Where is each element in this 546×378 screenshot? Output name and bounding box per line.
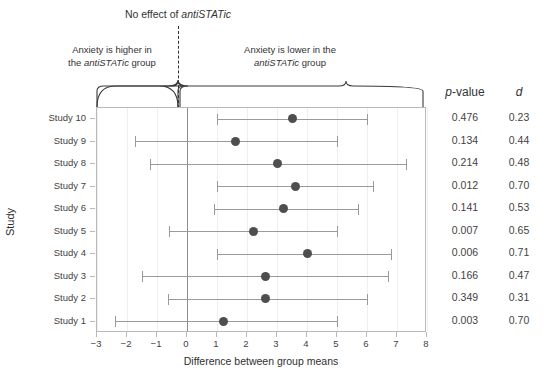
pvalue-column-header: p-value — [434, 85, 496, 99]
forest-row — [97, 108, 427, 131]
y-axis-tick-label: Study 1 — [8, 315, 86, 326]
forest-row — [97, 311, 427, 334]
annotation-right-line2-italic: antiSTATic — [254, 57, 299, 68]
y-axis-tick — [90, 253, 95, 254]
effect-size-cell: 0.65 — [500, 224, 538, 236]
ci-cap-upper — [388, 271, 389, 282]
y-axis-tick — [90, 186, 95, 187]
ci-cap-lower — [217, 181, 218, 192]
pvalue-header-suffix: -value — [452, 85, 485, 99]
ci-cap-upper — [337, 316, 338, 327]
y-axis-tick-label: Study 4 — [8, 247, 86, 258]
pvalue-cell: 0.166 — [434, 269, 496, 281]
brace-left-icon-real — [97, 81, 184, 107]
point-estimate-marker — [231, 137, 240, 146]
y-axis-tick-label: Study 8 — [8, 157, 86, 168]
ci-cap-lower — [214, 204, 215, 215]
effect-size-cell: 0.48 — [500, 156, 538, 168]
x-axis-tick-label: 7 — [383, 338, 409, 349]
effect-size-cell: 0.44 — [500, 134, 538, 146]
ci-cap-upper — [337, 136, 338, 147]
x-axis-tick-label: 1 — [203, 338, 229, 349]
pvalue-cell: 0.007 — [434, 224, 496, 236]
pvalue-cell: 0.476 — [434, 111, 496, 123]
chart-title-prefix: No effect of — [125, 8, 181, 20]
point-estimate-marker — [219, 317, 228, 326]
forest-row — [97, 221, 427, 244]
effect-size-cell: 0.70 — [500, 179, 538, 191]
y-axis-tick — [90, 208, 95, 209]
ci-cap-lower — [142, 271, 143, 282]
y-axis-title: Study — [4, 192, 16, 252]
y-axis-tick-label: Study 7 — [8, 180, 86, 191]
x-axis-tick — [96, 332, 97, 337]
brace-group — [96, 80, 426, 108]
annotation-right: Anxiety is lower in the antiSTATic group — [190, 44, 390, 69]
x-axis-tick — [336, 332, 337, 337]
effect-size-cell: 0.47 — [500, 269, 538, 281]
point-estimate-marker — [279, 204, 288, 213]
x-axis-tick — [306, 332, 307, 337]
ci-cap-lower — [169, 226, 170, 237]
point-estimate-marker — [261, 272, 270, 281]
x-axis-tick — [366, 332, 367, 337]
forest-row — [97, 176, 427, 199]
x-axis-tick — [126, 332, 127, 337]
annotation-left-line2-post: group — [129, 57, 156, 68]
x-axis-tick-label: −3 — [83, 338, 109, 349]
point-estimate-marker — [291, 182, 300, 191]
chart-title: No effect of antiSTATic — [0, 8, 356, 20]
x-axis-tick — [156, 332, 157, 337]
annotation-right-line2-post: group — [299, 57, 326, 68]
point-estimate-marker — [249, 227, 258, 236]
y-axis-tick-label: Study 3 — [8, 270, 86, 281]
pvalue-cell: 0.003 — [434, 314, 496, 326]
x-axis-tick — [276, 332, 277, 337]
point-estimate-marker — [288, 114, 297, 123]
ci-cap-upper — [406, 159, 407, 170]
point-estimate-marker — [261, 294, 270, 303]
annotation-left-line2-italic: antiSTATic — [84, 57, 129, 68]
x-axis-title: Difference between group means — [96, 355, 426, 367]
pvalue-cell: 0.141 — [434, 201, 496, 213]
x-axis-tick — [396, 332, 397, 337]
x-axis-tick-label: −2 — [113, 338, 139, 349]
annotation-left-line2-pre: the — [68, 57, 84, 68]
x-axis-tick-label: −1 — [143, 338, 169, 349]
ci-cap-lower — [217, 249, 218, 260]
x-axis-tick-label: 8 — [413, 338, 439, 349]
x-axis-tick-label: 6 — [353, 338, 379, 349]
annotation-right-line1: Anxiety is lower in the — [244, 44, 336, 55]
brace-left-icon — [97, 80, 188, 107]
x-axis-tick — [186, 332, 187, 337]
x-axis-tick — [246, 332, 247, 337]
y-axis-tick-label: Study 9 — [8, 135, 86, 146]
ci-cap-lower — [217, 114, 218, 125]
pvalue-cell: 0.214 — [434, 156, 496, 168]
effect-size-cell: 0.23 — [500, 111, 538, 123]
forest-row — [97, 266, 427, 289]
brace-right-icon — [180, 81, 423, 107]
y-axis-tick — [90, 298, 95, 299]
x-axis-tick — [216, 332, 217, 337]
pvalue-cell: 0.349 — [434, 291, 496, 303]
point-estimate-marker — [273, 159, 282, 168]
forest-row — [97, 153, 427, 176]
x-axis-tick-label: 2 — [233, 338, 259, 349]
annotation-left-line1: Anxiety is higher in — [72, 44, 152, 55]
x-axis-tick-label: 4 — [293, 338, 319, 349]
y-axis-tick — [90, 231, 95, 232]
pvalue-cell: 0.134 — [434, 134, 496, 146]
pvalue-header-p: p — [445, 85, 452, 99]
annotation-left: Anxiety is higher in the antiSTATic grou… — [46, 44, 178, 69]
y-axis-tick — [90, 276, 95, 277]
ci-cap-lower — [150, 159, 151, 170]
point-estimate-marker — [303, 249, 312, 258]
grid-line — [427, 108, 428, 331]
y-axis-tick — [90, 118, 95, 119]
ci-cap-upper — [337, 226, 338, 237]
ci-cap-upper — [367, 114, 368, 125]
forest-row — [97, 243, 427, 266]
x-axis-tick-label: 3 — [263, 338, 289, 349]
forest-row — [97, 198, 427, 221]
